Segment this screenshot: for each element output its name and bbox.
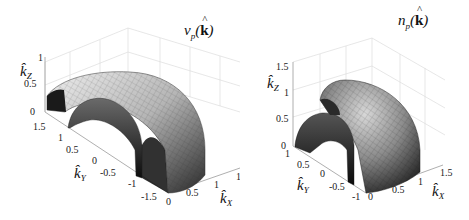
svg-text:1.5: 1.5 bbox=[276, 61, 289, 72]
svg-text:-1: -1 bbox=[352, 191, 360, 202]
svg-text:-0.5: -0.5 bbox=[329, 181, 345, 192]
y-axis-label: k̂Y bbox=[297, 177, 310, 195]
svg-text:1: 1 bbox=[285, 148, 290, 159]
svg-text:0: 0 bbox=[320, 168, 325, 179]
z-axis-label: k̂Z bbox=[20, 63, 33, 81]
z-axis-label: k̂Z bbox=[267, 75, 280, 93]
svg-text:0.5: 0.5 bbox=[297, 159, 310, 170]
svg-text:0: 0 bbox=[30, 106, 35, 117]
svg-text:0: 0 bbox=[166, 196, 171, 207]
np-surface-plot: 0 0.5 1 1.5 1 0.5 0 -0.5 -1 0 0.5 1 1.5 … bbox=[240, 0, 469, 220]
np-title: np(^k) bbox=[398, 12, 428, 31]
x-axis-label: k̂X bbox=[432, 183, 445, 201]
svg-text:0: 0 bbox=[92, 155, 97, 166]
svg-text:-0.5: -0.5 bbox=[100, 167, 116, 178]
svg-text:0.5: 0.5 bbox=[392, 184, 405, 195]
z-ticks: 0 0.5 1 bbox=[24, 52, 43, 117]
svg-text:1: 1 bbox=[214, 179, 219, 190]
svg-text:0: 0 bbox=[368, 191, 373, 202]
vp-surface-plot: 0 0.5 1 1.5 1 0.5 0 -0.5 -1 -1.5 0 0.5 1… bbox=[0, 0, 240, 220]
svg-text:1.5: 1.5 bbox=[33, 121, 46, 132]
svg-text:0.5: 0.5 bbox=[276, 113, 289, 124]
svg-text:1: 1 bbox=[284, 87, 289, 98]
x-axis-label: k̂X bbox=[220, 190, 233, 208]
svg-text:1.5: 1.5 bbox=[440, 167, 453, 178]
y-axis-label: k̂Y bbox=[74, 165, 87, 183]
svg-text:1: 1 bbox=[58, 132, 63, 143]
svg-text:0.5: 0.5 bbox=[186, 187, 199, 198]
svg-text:-1.5: -1.5 bbox=[141, 191, 157, 202]
svg-text:0.5: 0.5 bbox=[66, 144, 79, 155]
z-ticks: 0 0.5 1 1.5 bbox=[276, 61, 289, 151]
np-plot-canvas: 0 0.5 1 1.5 1 0.5 0 -0.5 -1 0 0.5 1 1.5 … bbox=[240, 0, 469, 220]
vp-title: vp(^k) bbox=[184, 22, 214, 41]
svg-text:1: 1 bbox=[418, 176, 423, 187]
svg-text:1: 1 bbox=[38, 52, 43, 63]
svg-text:-1: -1 bbox=[128, 178, 136, 189]
